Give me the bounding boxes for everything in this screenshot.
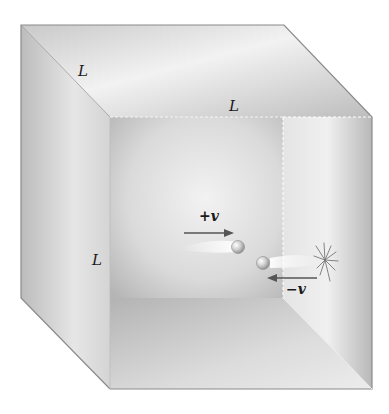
back-wall: [110, 117, 283, 298]
velocity-label-positive: +v: [199, 209, 219, 223]
molecule-moving-left: [257, 257, 270, 270]
velocity-label-negative: −v: [286, 282, 306, 296]
edge-label-height: L: [92, 253, 102, 268]
cube-svg: [0, 0, 389, 414]
edge-label-depth: L: [78, 64, 88, 79]
edge-label-width: L: [229, 99, 239, 114]
molecule-moving-right: [232, 241, 245, 254]
cube-diagram: L L L +v −v: [0, 0, 389, 414]
